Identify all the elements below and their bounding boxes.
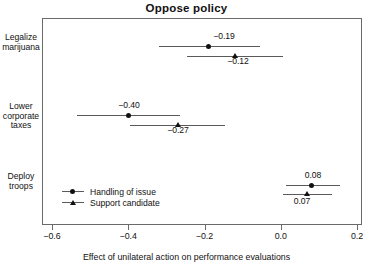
point-label-handling-3: 0.08 [290, 170, 336, 180]
x-tick-4 [357, 225, 358, 230]
y-category-label-2: Lower corporate taxes [0, 102, 42, 131]
x-tick-0 [52, 225, 53, 230]
legend-circle-icon [62, 186, 84, 197]
y-category-label-3-line-2: troops [0, 182, 42, 192]
y-category-label-1: Legalize marijuana [0, 33, 42, 52]
x-tick-label-0: −0.6 [32, 231, 72, 241]
y-category-label-2-line-3: taxes [0, 121, 42, 131]
legend-label-support: Support candidate [90, 198, 160, 208]
marker-handling-2 [126, 113, 131, 118]
x-tick-3 [281, 225, 282, 230]
legend-label-handling: Handling of issue [90, 187, 156, 197]
point-label-handling-2: −0.40 [106, 100, 152, 110]
x-tick-2 [205, 225, 206, 230]
legend-item-support: Support candidate [62, 197, 160, 208]
x-tick-label-2: −0.2 [185, 231, 225, 241]
x-tick-label-3: 0.0 [261, 231, 301, 241]
x-tick-label-4: 0.2 [337, 231, 373, 241]
x-tick-label-1: −0.4 [108, 231, 148, 241]
point-label-handling-1: −0.19 [201, 31, 247, 41]
legend-item-handling: Handling of issue [62, 186, 160, 197]
point-label-support-3: 0.07 [279, 196, 325, 206]
legend: Handling of issue Support candidate [62, 186, 160, 208]
chart-title: Oppose policy [0, 2, 373, 14]
marker-handling-3 [309, 183, 314, 188]
marker-support-3 [304, 191, 310, 196]
x-tick-1 [128, 225, 129, 230]
point-label-support-1: −0.12 [215, 56, 261, 66]
legend-triangle-icon [62, 197, 84, 208]
marker-handling-1 [206, 44, 211, 49]
figure: Oppose policy Legalize marijuana Lower c… [0, 0, 373, 272]
y-category-label-3: Deploy troops [0, 172, 42, 191]
point-label-support-2: −0.27 [155, 125, 201, 135]
y-category-label-1-line-2: marijuana [0, 43, 42, 53]
x-axis-title: Effect of unilateral action on performan… [0, 252, 373, 262]
